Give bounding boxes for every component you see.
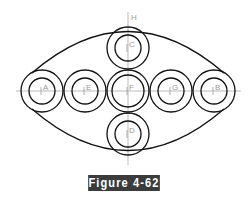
circle-label: D (129, 126, 135, 135)
tangent-circles-diagram: AEFGBCD H (0, 0, 248, 200)
circle-label: C (129, 40, 135, 49)
label-h: H (131, 13, 137, 22)
circle-label: A (43, 83, 49, 92)
circle-label: E (86, 83, 91, 92)
circle-label: B (215, 83, 220, 92)
circle-label: G (172, 83, 178, 92)
figure-caption: Figure 4-62 (88, 175, 160, 191)
circle-label: F (129, 83, 134, 92)
